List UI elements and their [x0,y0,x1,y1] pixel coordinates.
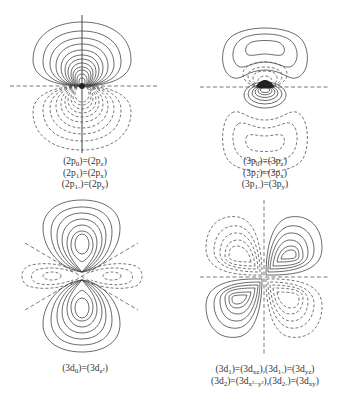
caption-line: (3d2)=(3dx²−y²),(3d2-)=(3dxy) [195,376,335,388]
panel-3p-contours [200,28,330,172]
caption-2p: (2p0)=(2pz) (2p1)=(2px) (2p1-)=(2py) [40,156,130,191]
panel-3dz2-contours [22,200,142,352]
caption-3d-mixed: (3d1)=(3dxz),(3d1-)=(3dyz) (3d2)=(3dx²−y… [195,364,335,387]
caption-line: (3d0)=(3dz²) [40,363,130,375]
caption-line: (2p1-)=(2py) [40,179,130,191]
caption-line: (3p0)=(3pz) [220,156,310,168]
caption-3p: (3p0)=(3pz) (3p1)=(3px) (3p1-)=(3py) [220,156,310,191]
caption-line: (3d1)=(3dxz),(3d1-)=(3dyz) [195,364,335,376]
panel-3d-mixed-contours [200,200,330,355]
caption-line: (2p0)=(2pz) [40,156,130,168]
caption-line: (3p1)=(3px) [220,168,310,180]
caption-3d0: (3d0)=(3dz²) [40,363,130,375]
orbital-contour-figure: .s { fill:none; stroke:#444; stroke-widt… [0,0,337,402]
caption-line: (3p1-)=(3py) [220,179,310,191]
nucleus-dot [79,83,85,89]
caption-line: (2p1)=(2px) [40,168,130,180]
panel-2p-contours [10,15,158,153]
